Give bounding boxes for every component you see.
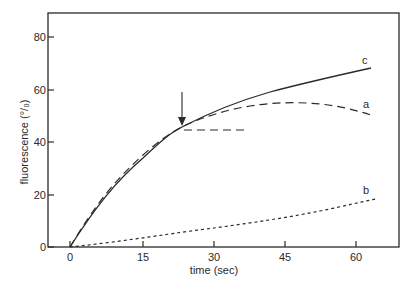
curve-label-a: a <box>363 98 370 110</box>
curve-label-c: c <box>362 54 368 66</box>
x-tick-label: 45 <box>279 251 291 263</box>
y-tick-label: 20 <box>34 189 46 201</box>
y-tick-label: 80 <box>34 31 46 43</box>
y-axis-title: fluorescence (°/₀) <box>18 100 30 185</box>
x-tick-label: 30 <box>208 251 220 263</box>
y-axis <box>48 37 54 247</box>
curve-a <box>70 103 371 247</box>
y-tick-label: 0 <box>40 241 46 253</box>
curve-c <box>70 68 371 247</box>
x-tick-label: 15 <box>137 251 149 263</box>
curve-label-b: b <box>363 184 369 196</box>
y-tick-label: 60 <box>34 84 46 96</box>
x-tick-label: 0 <box>67 251 73 263</box>
x-tick-label: 60 <box>350 251 362 263</box>
fluorescence-chart: 0 20 40 60 80 0 15 30 45 60 time (sec) f… <box>0 0 419 282</box>
y-tick-label: 40 <box>34 136 46 148</box>
curve-b <box>70 199 376 247</box>
x-axis-title: time (sec) <box>190 264 238 276</box>
arrow-annotation <box>178 92 186 126</box>
arrow-head-icon <box>178 117 186 126</box>
